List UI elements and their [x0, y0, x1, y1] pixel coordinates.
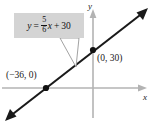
equation-callout-box: y = 5 6 x + 30	[14, 13, 84, 38]
y-axis-label: y	[88, 2, 92, 11]
point-marker-x-intercept	[43, 85, 49, 91]
graph-figure: y = 5 6 x + 30 y x (0, 30) (−36, 0)	[0, 0, 156, 123]
line-arrow-upper-right-icon	[137, 8, 149, 20]
equation-constant: 30	[61, 21, 71, 31]
equation-variable: x	[48, 21, 52, 31]
point-label-x-intercept: (−36, 0)	[6, 71, 37, 81]
equation-fraction: 5 6	[41, 16, 47, 33]
equation-lhs: y	[27, 21, 31, 31]
fraction-denominator: 6	[41, 26, 47, 34]
callout-pointer	[60, 38, 79, 67]
point-marker-y-intercept	[90, 47, 96, 53]
equation-text: y = 5 6 x + 30	[14, 13, 84, 38]
point-label-y-intercept: (0, 30)	[97, 54, 122, 64]
x-axis-arrow-icon	[138, 85, 147, 92]
fraction-numerator: 5	[41, 16, 47, 24]
x-axis-label: x	[143, 93, 147, 102]
equation-plus: +	[54, 21, 59, 31]
equation-equals: =	[33, 21, 38, 31]
line-arrow-lower-left-icon	[5, 109, 17, 121]
